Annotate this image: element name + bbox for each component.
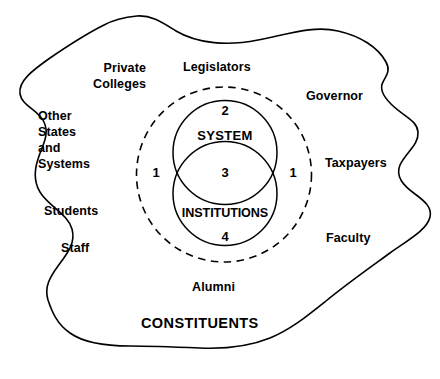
diagram-canvas: PrivateColleges OtherStatesandSystems St… (0, 0, 440, 379)
venn-region-2-number: 2 (195, 103, 255, 118)
label-staff: Staff (61, 240, 89, 256)
venn-system-label: SYSTEM (185, 128, 265, 143)
label-students: Students (44, 203, 98, 219)
label-other-states-and-systems: OtherStatesandSystems (38, 108, 110, 172)
venn-institutions-label: INSTITUTIONS (165, 206, 285, 220)
diagram-title-constituents: CONSTITUENTS (141, 314, 259, 333)
label-legislators: Legislators (183, 59, 251, 75)
venn-region-3-number: 3 (195, 165, 255, 180)
venn-region-4-number: 4 (195, 229, 255, 244)
label-governor: Governor (306, 88, 363, 104)
label-taxpayers: Taxpayers (325, 155, 387, 171)
label-faculty: Faculty (326, 230, 370, 246)
venn-region-1-left-number: 1 (144, 165, 168, 180)
label-private-colleges: PrivateColleges (66, 60, 146, 92)
venn-region-1-right-number: 1 (281, 165, 305, 180)
label-alumni: Alumni (192, 279, 235, 295)
